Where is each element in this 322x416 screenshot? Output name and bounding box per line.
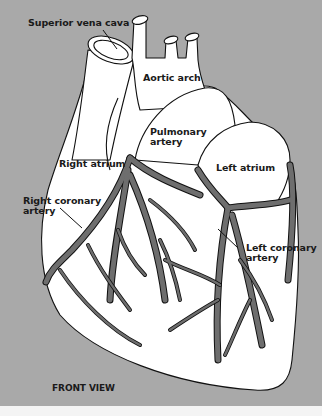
label-right-coronary-artery: Right coronary artery xyxy=(23,196,103,216)
label-right-atrium: Right atrium xyxy=(59,159,125,169)
label-aortic-arch: Aortic arch xyxy=(143,73,201,83)
label-pulmonary-artery: Pulmonary artery xyxy=(150,127,210,147)
label-left-coronary-artery: Left coronary artery xyxy=(246,243,322,263)
bottom-margin xyxy=(0,406,322,416)
heart-diagram: Superior vena cava Aortic arch Pulmonary… xyxy=(0,0,322,406)
label-superior-vena-cava: Superior vena cava xyxy=(28,18,129,28)
diagram-title: FRONT VIEW xyxy=(52,383,115,393)
label-left-atrium: Left atrium xyxy=(216,163,275,173)
